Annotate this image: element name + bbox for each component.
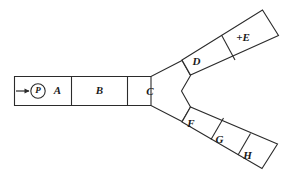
lower-branch-outline bbox=[182, 107, 278, 169]
pressure-marker-label: P bbox=[35, 85, 41, 95]
segment-label-a: A bbox=[53, 84, 61, 96]
segment-label-g: G bbox=[216, 133, 224, 145]
segment-label-d: D bbox=[192, 55, 201, 67]
diagram-canvas: P A B C D +E F G H bbox=[0, 0, 290, 184]
segment-label-f: F bbox=[186, 117, 195, 129]
segment-label-e: +E bbox=[236, 31, 250, 43]
segment-label-h: H bbox=[242, 149, 252, 161]
y-branch-duct-diagram: P A B C D +E F G H bbox=[0, 0, 290, 184]
segment-label-c: C bbox=[146, 85, 154, 97]
segment-label-b: B bbox=[95, 84, 103, 96]
